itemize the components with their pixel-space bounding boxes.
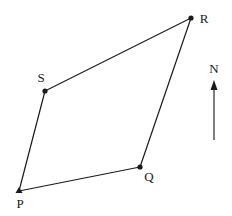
north-arrowhead-icon	[211, 80, 218, 90]
edge-r-s	[45, 18, 191, 91]
edge-q-r	[140, 18, 191, 167]
edge-p-q	[19, 167, 140, 191]
quadrilateral-edges	[19, 18, 191, 191]
edge-s-p	[19, 91, 45, 191]
label-s: S	[37, 70, 44, 85]
point-r-dot-icon	[188, 15, 193, 20]
north-label: N	[209, 61, 219, 76]
point-q-dot-icon	[137, 164, 142, 169]
point-s-dot-icon	[42, 88, 47, 93]
label-q: Q	[144, 169, 154, 184]
diagram-canvas: P Q R S N	[0, 0, 232, 216]
label-r: R	[200, 11, 209, 26]
diagram-svg: P Q R S N	[0, 0, 232, 216]
north-arrow: N	[209, 61, 219, 140]
vertex-markers	[16, 15, 194, 193]
label-p: P	[16, 196, 23, 211]
